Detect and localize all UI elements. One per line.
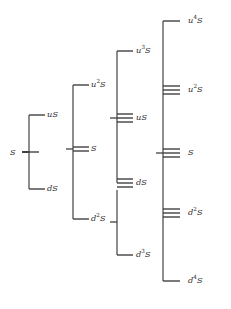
node-label-c3-u3S: u3S [136,46,151,54]
label-S: S [145,249,151,259]
label-S: S [197,207,203,217]
label-S: S [141,112,147,122]
node-label-c4-u2S: u2S [188,85,203,93]
label-S: S [197,84,203,94]
node-label-c2-d2S: d2S [91,214,106,222]
label-superscript: 2 [193,206,197,212]
label-superscript: 4 [193,14,197,20]
node-label-c3-uS: uS [136,113,147,121]
label-base: S [91,143,97,153]
label-S: S [197,15,203,25]
node-label-c2-S: S [91,144,97,152]
label-S: S [100,79,106,89]
label-S: S [100,213,106,223]
label-S: S [141,177,147,187]
label-base: S [188,147,194,157]
node-label-c4-d4S: d4S [188,276,203,284]
label-superscript: 2 [96,212,100,218]
node-label-c4-d2S: d2S [188,208,203,216]
lattice-svg [0,0,231,309]
node-label-c3-dS: dS [136,178,147,186]
label-superscript: 3 [141,248,145,254]
node-label-c1-dS: dS [47,184,58,192]
label-S: S [145,45,151,55]
label-superscript: 2 [193,83,197,89]
lattice-diagram: SuSdSu2SSd2Su3SuSdSd3Su4Su2SSd2Sd4S [0,0,231,309]
label-S: S [52,109,58,119]
node-label-c2-u2S: u2S [91,80,106,88]
label-base: S [10,147,16,157]
label-superscript: 3 [141,44,145,50]
label-superscript: 4 [193,274,197,280]
node-label-c0-S: S [10,148,16,156]
label-S: S [52,183,58,193]
level-line-group [22,21,180,281]
label-S: S [197,275,203,285]
node-label-c3-d3S: d3S [136,250,151,258]
node-label-c1-uS: uS [47,110,58,118]
node-label-c4-u4S: u4S [188,16,203,24]
node-label-c4-S: S [188,148,194,156]
label-superscript: 2 [96,78,100,84]
